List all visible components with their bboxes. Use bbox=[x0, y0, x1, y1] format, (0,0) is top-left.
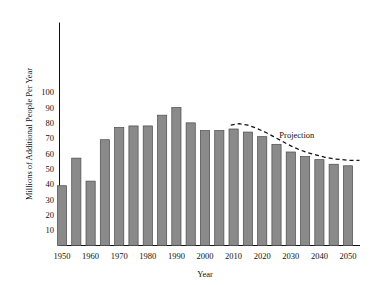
bar-2050 bbox=[343, 166, 352, 246]
x-tick-1970: 1970 bbox=[111, 251, 128, 261]
y-axis-tick-labels: 102030405060708090100 bbox=[41, 87, 54, 235]
bar-2030 bbox=[286, 152, 295, 246]
x-tick-2010: 2010 bbox=[225, 251, 242, 261]
bar-2035 bbox=[301, 157, 310, 246]
y-tick-80: 80 bbox=[46, 118, 55, 128]
chart-figure: 102030405060708090100 195019601970198019… bbox=[0, 0, 370, 285]
y-tick-20: 20 bbox=[46, 210, 55, 220]
bar-1990 bbox=[172, 108, 181, 246]
bar-1965 bbox=[100, 140, 109, 246]
bar-1970 bbox=[115, 127, 124, 245]
y-tick-50: 50 bbox=[46, 164, 55, 174]
x-tick-1960: 1960 bbox=[82, 251, 99, 261]
bar-2025 bbox=[272, 144, 281, 245]
bar-1980 bbox=[143, 126, 152, 246]
x-axis-title: Year bbox=[197, 269, 213, 279]
bar-1985 bbox=[158, 115, 167, 245]
bar-series bbox=[57, 108, 352, 246]
bar-2005 bbox=[215, 131, 224, 246]
y-tick-10: 10 bbox=[46, 225, 55, 235]
bar-chart-canvas: 102030405060708090100 195019601970198019… bbox=[0, 0, 370, 285]
x-tick-2050: 2050 bbox=[340, 251, 357, 261]
x-tick-1980: 1980 bbox=[139, 251, 156, 261]
x-tick-2020: 2020 bbox=[254, 251, 271, 261]
y-tick-70: 70 bbox=[46, 133, 55, 143]
bar-2015 bbox=[243, 132, 252, 245]
bar-2010 bbox=[229, 129, 238, 246]
x-axis-tick-labels: 1950196019701980199020002010202020302040… bbox=[54, 251, 357, 261]
bar-1995 bbox=[186, 123, 195, 246]
y-tick-30: 30 bbox=[46, 195, 55, 205]
y-axis-title: Millions of Additional People Per Year bbox=[24, 68, 34, 200]
chart-annotations: Projection bbox=[279, 130, 315, 140]
y-tick-90: 90 bbox=[46, 103, 55, 113]
bar-2040 bbox=[315, 160, 324, 246]
bar-2020 bbox=[258, 137, 267, 246]
bar-2045 bbox=[329, 164, 338, 245]
bar-1955 bbox=[72, 158, 81, 245]
x-tick-2030: 2030 bbox=[282, 251, 299, 261]
bar-2000 bbox=[200, 131, 209, 246]
y-tick-40: 40 bbox=[46, 179, 55, 189]
x-tick-1950: 1950 bbox=[54, 251, 71, 261]
bar-1950 bbox=[57, 186, 66, 246]
y-tick-100: 100 bbox=[41, 87, 54, 97]
bar-1960 bbox=[86, 181, 95, 245]
x-tick-2040: 2040 bbox=[311, 251, 328, 261]
projection-label: Projection bbox=[279, 130, 315, 140]
x-tick-1990: 1990 bbox=[168, 251, 185, 261]
bar-1975 bbox=[129, 126, 138, 246]
x-tick-2000: 2000 bbox=[197, 251, 214, 261]
y-tick-60: 60 bbox=[46, 149, 55, 159]
